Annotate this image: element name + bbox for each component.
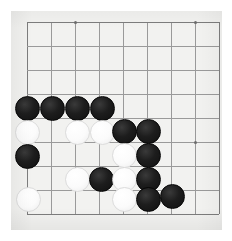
black-stone-b6[interactable] xyxy=(136,119,161,144)
black-stone-b1[interactable] xyxy=(15,96,40,121)
go-board-screenshot xyxy=(0,0,232,241)
black-stone-b9[interactable] xyxy=(89,167,114,192)
black-stone-b2[interactable] xyxy=(40,96,65,121)
white-stone-w7[interactable] xyxy=(16,187,41,212)
board-stones[interactable] xyxy=(0,0,232,241)
black-stone-b7[interactable] xyxy=(15,144,40,169)
black-stone-b3[interactable] xyxy=(65,96,90,121)
white-stone-w1[interactable] xyxy=(15,120,40,145)
white-stone-w5[interactable] xyxy=(65,167,90,192)
black-stone-b5[interactable] xyxy=(112,119,137,144)
white-stone-w2[interactable] xyxy=(65,120,90,145)
black-stone-b8[interactable] xyxy=(136,143,161,168)
white-stone-w4[interactable] xyxy=(112,143,137,168)
black-stone-b12[interactable] xyxy=(160,184,185,209)
black-stone-b11[interactable] xyxy=(136,187,161,212)
black-stone-b4[interactable] xyxy=(90,96,115,121)
white-stone-w8[interactable] xyxy=(112,187,137,212)
white-stone-w3[interactable] xyxy=(90,120,115,145)
